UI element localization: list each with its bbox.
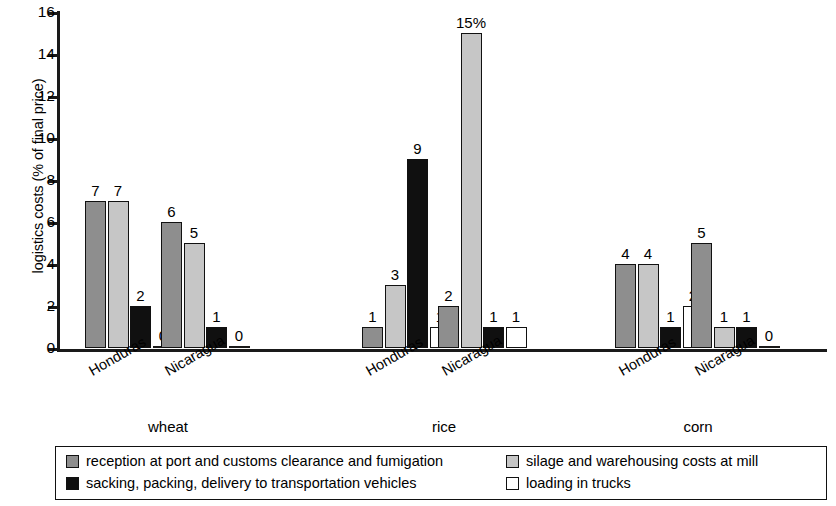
legend-label: reception at port and customs clearance … xyxy=(86,453,443,469)
legend-item[interactable]: sacking, packing, delivery to transporta… xyxy=(66,475,416,491)
bar xyxy=(461,33,482,348)
group-label-corn: corn xyxy=(638,418,758,435)
bar xyxy=(759,346,780,348)
bar-value-label: 7 xyxy=(100,183,137,198)
y-tick-label-10: 10 xyxy=(11,130,55,146)
bar xyxy=(638,264,659,348)
bar xyxy=(691,243,712,348)
legend-label: sacking, packing, delivery to transporta… xyxy=(86,475,416,491)
bar xyxy=(438,306,459,348)
y-tick-label-14: 14 xyxy=(11,46,55,62)
legend-swatch-icon xyxy=(506,455,519,468)
bar xyxy=(506,327,527,348)
y-tick-label-12: 12 xyxy=(11,88,55,104)
bar-value-label: 5 xyxy=(176,225,213,240)
y-tick-label-16: 16 xyxy=(11,4,55,20)
bar-value-label: 15% xyxy=(453,15,490,30)
chart-legend: reception at port and customs clearance … xyxy=(55,446,827,500)
bar-value-label: 9 xyxy=(399,141,436,156)
bar-value-label: 0 xyxy=(751,328,788,343)
y-tick-label-8: 8 xyxy=(11,172,55,188)
bar-value-label: 0 xyxy=(221,328,258,343)
bar-value-label: 2 xyxy=(122,288,159,303)
legend-item[interactable]: loading in trucks xyxy=(506,475,631,491)
bar xyxy=(85,201,106,348)
legend-swatch-icon xyxy=(66,477,79,490)
legend-label: loading in trucks xyxy=(526,475,631,491)
plot-area: 0246810121416 772065101391215%1144125110 xyxy=(57,11,827,350)
legend-label: silage and warehousing costs at mill xyxy=(526,453,758,469)
legend-swatch-icon xyxy=(66,455,79,468)
bar-value-label: 6 xyxy=(153,204,190,219)
y-tick-label-2: 2 xyxy=(11,298,55,314)
legend-item[interactable]: reception at port and customs clearance … xyxy=(66,453,443,469)
bar-chart-figure: logistics costs (% of final price) 02468… xyxy=(0,0,836,506)
bar-value-label: 1 xyxy=(198,309,235,324)
legend-item[interactable]: silage and warehousing costs at mill xyxy=(506,453,758,469)
group-label-wheat: wheat xyxy=(108,418,228,435)
bar xyxy=(229,346,250,348)
bar xyxy=(161,222,182,348)
bar-value-label: 1 xyxy=(498,309,535,324)
y-tick-label-6: 6 xyxy=(11,214,55,230)
bar xyxy=(108,201,129,348)
bar xyxy=(385,285,406,348)
bar-value-label: 5 xyxy=(683,225,720,240)
y-tick-label-0: 0 xyxy=(11,340,55,356)
bar xyxy=(615,264,636,348)
y-tick-label-4: 4 xyxy=(11,256,55,272)
bar xyxy=(184,243,205,348)
bar-value-label: 4 xyxy=(630,246,667,261)
bar-value-label: 1 xyxy=(728,309,765,324)
x-axis-line xyxy=(57,349,827,352)
legend-swatch-icon xyxy=(506,477,519,490)
bar xyxy=(362,327,383,348)
group-label-rice: rice xyxy=(384,418,504,435)
